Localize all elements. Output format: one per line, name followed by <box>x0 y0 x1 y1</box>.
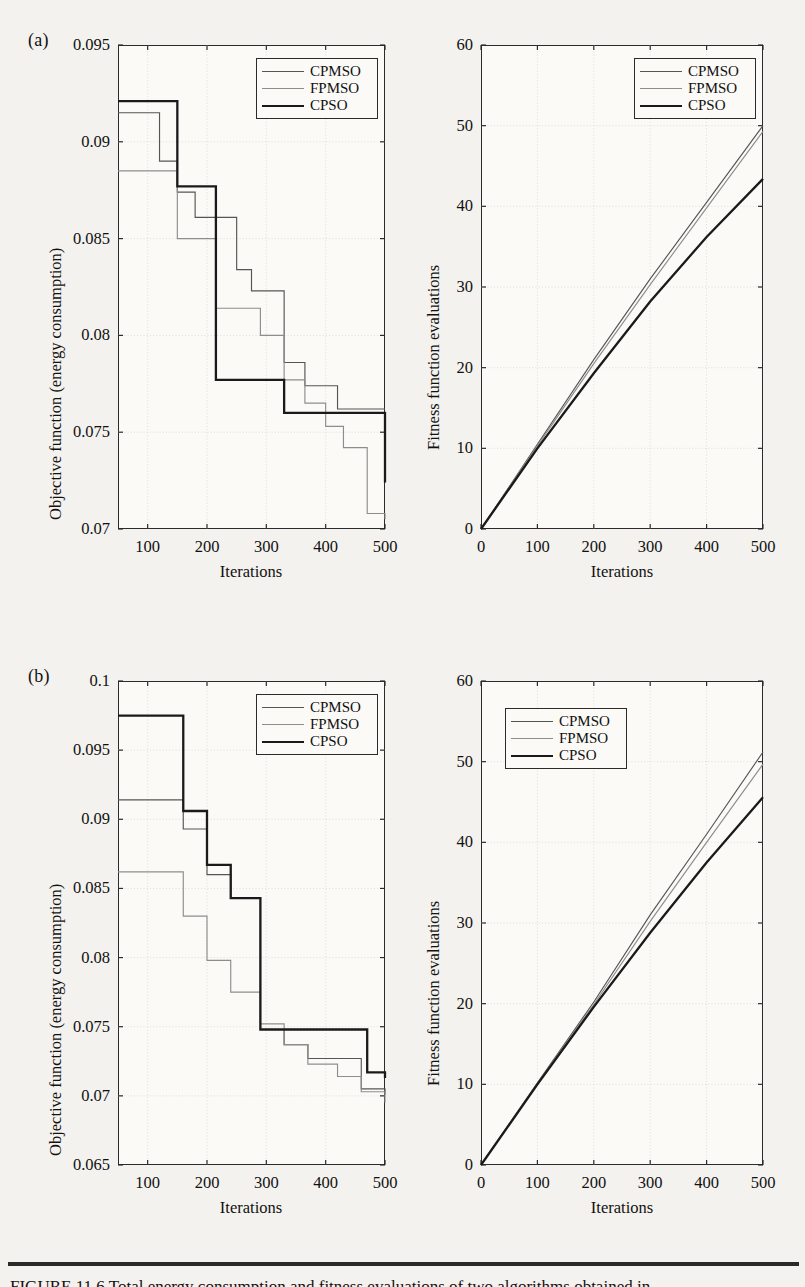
x-axis-title: Iterations <box>591 1198 653 1218</box>
legend-label: FPMSO <box>559 731 608 746</box>
y-tick-label: 0 <box>415 1155 473 1175</box>
y-tick-label: 40 <box>415 832 473 852</box>
legend-swatch-fpmso <box>511 738 553 739</box>
figure-caption: FIGURE 11.6 Total energy consumption and… <box>10 1277 800 1287</box>
x-tick-label: 100 <box>525 1173 550 1193</box>
legend-label: CPMSO <box>559 714 610 729</box>
legend-item-fpmso: FPMSO <box>511 730 619 747</box>
legend-item-cpso: CPSO <box>511 747 619 764</box>
figure-page: (a) 0.070.0750.080.0850.090.095100200300… <box>0 0 805 1287</box>
legend-item-cpmso: CPMSO <box>511 713 619 730</box>
x-tick-label: 0 <box>477 1173 485 1193</box>
x-tick-label: 200 <box>581 1173 606 1193</box>
legend-swatch-cpmso <box>511 721 553 722</box>
y-tick-label: 50 <box>415 752 473 772</box>
y-axis-title: Fitness function evaluations <box>424 901 444 1086</box>
caption-divider <box>8 1262 799 1266</box>
legend-label: CPSO <box>559 748 597 763</box>
x-tick-label: 300 <box>638 1173 663 1193</box>
x-tick-label: 500 <box>751 1173 776 1193</box>
x-tick-label: 400 <box>694 1173 719 1193</box>
legend-b-right: CPMSOFPMSOCPSO <box>505 708 627 769</box>
series-line-cpso <box>481 797 763 1165</box>
legend-swatch-cpso <box>511 755 553 757</box>
y-tick-label: 60 <box>415 671 473 691</box>
